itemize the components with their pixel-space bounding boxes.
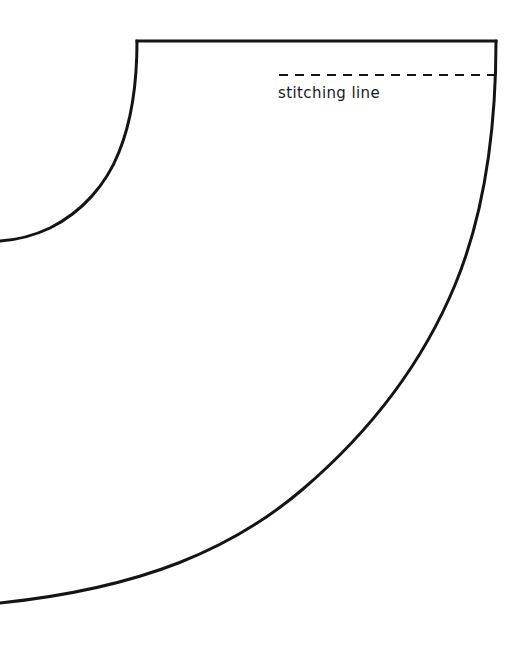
outer-curve-line — [0, 41, 496, 603]
pattern-diagram-canvas: stitching line — [0, 0, 530, 646]
inner-curve-line — [0, 41, 137, 241]
pattern-drawing — [0, 0, 530, 646]
stitching-line-label: stitching line — [278, 84, 380, 102]
